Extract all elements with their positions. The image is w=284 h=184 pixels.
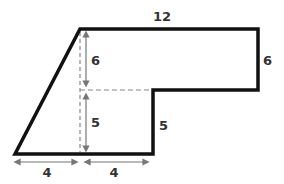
label-right-upper: 6 (263, 53, 272, 68)
label-top: 12 (153, 9, 171, 24)
label-bottom-left: 4 (42, 165, 51, 180)
composite-shape-diagram: 12 6 5 6 5 4 4 (0, 0, 284, 184)
shape-outline (15, 29, 258, 154)
label-bottom-right: 4 (109, 165, 118, 180)
label-inner-upper: 6 (91, 53, 100, 68)
label-inner-lower: 5 (91, 115, 100, 130)
label-right-lower: 5 (159, 118, 168, 133)
